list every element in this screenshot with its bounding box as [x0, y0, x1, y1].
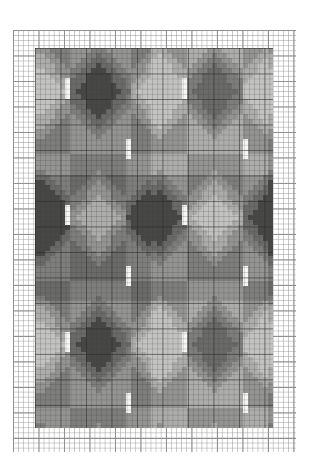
pattern-page — [0, 0, 310, 473]
pattern-chart — [35, 48, 273, 428]
pattern-chart-bitmap — [35, 48, 273, 428]
